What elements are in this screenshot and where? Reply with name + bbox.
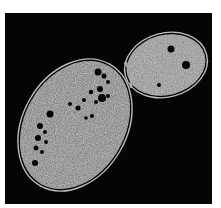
mother-cell <box>0 0 221 208</box>
yeast-cell-illustration <box>0 0 221 208</box>
